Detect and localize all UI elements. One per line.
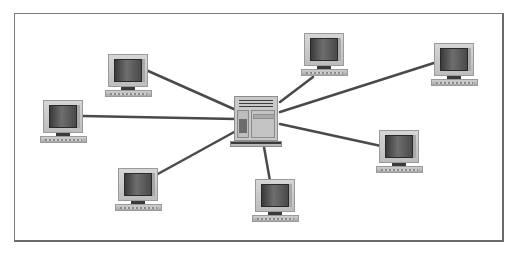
computer-icon [301, 33, 349, 77]
keyboard [105, 90, 152, 97]
computer-icon [431, 43, 479, 87]
keyboard [431, 79, 478, 86]
link-workstation-bottom-center [264, 147, 270, 181]
link-workstation-top-left [146, 70, 236, 110]
monitor [43, 100, 83, 133]
server-vents [239, 100, 273, 108]
server-right-panel [251, 110, 275, 138]
monitor [434, 43, 474, 76]
monitor [304, 33, 344, 66]
computer-icon [376, 130, 424, 174]
screen [440, 48, 468, 71]
keyboard [252, 215, 299, 222]
server-left-panel [237, 110, 249, 138]
monitor [379, 130, 419, 163]
computer-icon [115, 168, 163, 212]
server-base [230, 141, 282, 147]
monitor [108, 54, 148, 87]
keyboard [301, 69, 348, 76]
monitor [118, 168, 158, 201]
screen [49, 105, 77, 128]
keyboard [376, 166, 423, 173]
keyboard [40, 136, 87, 143]
computer-icon [40, 100, 88, 144]
screen [124, 173, 152, 196]
screen [385, 135, 413, 158]
screen [310, 38, 338, 61]
screen [114, 59, 142, 82]
link-workstation-bottom-left [156, 131, 236, 175]
computer-icon [105, 54, 153, 98]
screen [261, 184, 289, 207]
link-workstation-right [280, 124, 381, 146]
server-icon [230, 96, 282, 148]
link-workstation-top-center [280, 77, 313, 102]
monitor [255, 179, 295, 212]
computer-icon [252, 179, 300, 223]
link-workstation-left [83, 116, 236, 119]
keyboard [115, 204, 162, 211]
server-body [234, 96, 278, 141]
